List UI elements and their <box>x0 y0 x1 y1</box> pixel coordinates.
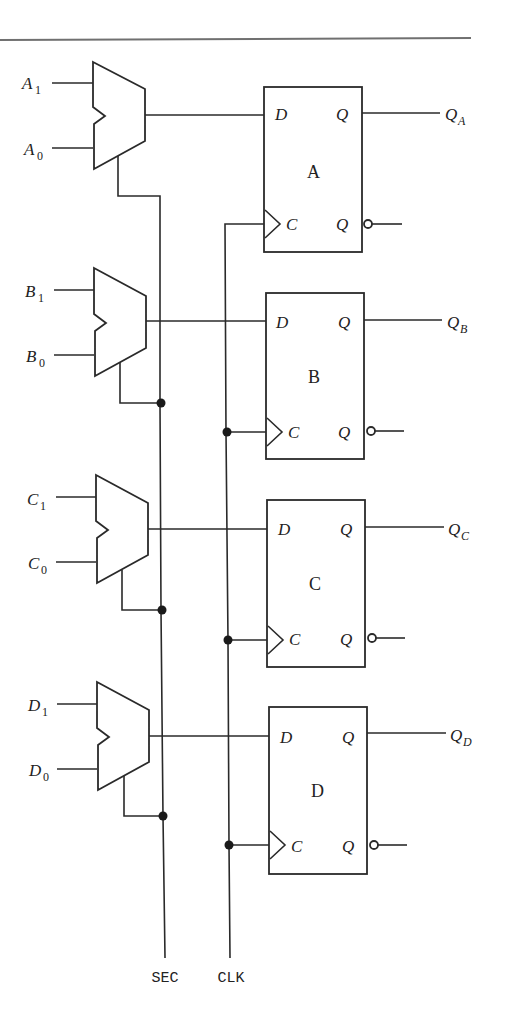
svg-text:B: B <box>308 367 320 387</box>
svg-text:1: 1 <box>40 499 46 513</box>
svg-text:C: C <box>289 630 301 649</box>
svg-text:D: D <box>279 728 293 747</box>
svg-text:D: D <box>28 761 42 780</box>
sec-junction-d <box>159 812 168 821</box>
svg-text:C: C <box>291 837 303 856</box>
svg-text:D: D <box>311 781 324 801</box>
svg-text:D: D <box>462 735 472 749</box>
svg-text:C: C <box>309 574 321 594</box>
mux-a <box>93 62 145 169</box>
svg-text:D: D <box>27 696 41 715</box>
svg-text:0: 0 <box>41 563 47 577</box>
clk-junction-d <box>225 841 234 850</box>
svg-text:B: B <box>25 282 36 301</box>
mux-d <box>97 682 149 790</box>
svg-text:0: 0 <box>37 149 43 163</box>
mux-c <box>96 475 148 583</box>
svg-text:D: D <box>275 313 289 332</box>
svg-text:0: 0 <box>39 356 45 370</box>
svg-text:Q: Q <box>340 520 352 539</box>
svg-text:C: C <box>27 490 39 509</box>
svg-text:Q: Q <box>342 837 354 856</box>
sec-junction-c <box>158 606 167 615</box>
svg-text:Q: Q <box>450 726 462 745</box>
svg-text:A: A <box>457 114 466 128</box>
svg-text:B: B <box>460 322 468 336</box>
clk-label: CLK <box>217 970 244 987</box>
mux-b <box>94 268 146 376</box>
svg-text:C: C <box>28 554 40 573</box>
clk-junction-c <box>224 636 233 645</box>
svg-text:Q: Q <box>445 105 457 124</box>
svg-text:1: 1 <box>35 83 41 97</box>
svg-text:Q: Q <box>448 520 460 539</box>
sec-label: SEC <box>151 970 178 987</box>
stage-b: B 1 B 0 D Q B C Q Q B <box>25 268 468 459</box>
svg-text:Q: Q <box>447 313 459 332</box>
svg-text:C: C <box>461 529 470 543</box>
svg-text:1: 1 <box>38 291 44 305</box>
svg-text:C: C <box>288 423 300 442</box>
svg-text:A: A <box>307 162 320 182</box>
clk-bus <box>223 224 270 958</box>
svg-text:Q: Q <box>338 423 350 442</box>
svg-text:A: A <box>23 140 35 159</box>
svg-text:A: A <box>21 74 33 93</box>
svg-text:0: 0 <box>43 770 49 784</box>
svg-text:Q: Q <box>338 313 350 332</box>
svg-text:D: D <box>277 520 291 539</box>
svg-text:C: C <box>286 215 298 234</box>
svg-text:Q: Q <box>336 215 348 234</box>
svg-text:1: 1 <box>42 705 48 719</box>
clk-junction-b <box>223 428 232 437</box>
svg-text:Q: Q <box>340 630 352 649</box>
top-rule <box>0 38 471 40</box>
register-diagram: A 1 A 0 D Q A C Q Q A B 1 B 0 D Q B C Q … <box>0 0 506 1025</box>
sec-junction-b <box>157 399 166 408</box>
svg-text:Q: Q <box>342 728 354 747</box>
svg-text:Q: Q <box>336 105 348 124</box>
svg-text:D: D <box>274 105 288 124</box>
stage-c: C 1 C 0 D Q C C Q Q C <box>27 475 470 667</box>
svg-text:B: B <box>26 347 37 366</box>
